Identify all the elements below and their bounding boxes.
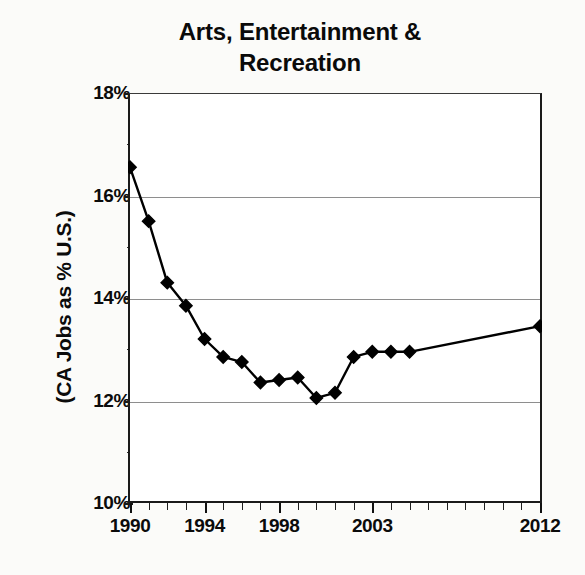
- x-tick-2007: [447, 503, 448, 510]
- chart-title-line-1: Arts, Entertainment &: [90, 16, 510, 47]
- x-tick-1996: [242, 503, 243, 510]
- x-axis: 19901994199820032012: [128, 503, 542, 563]
- data-point-marker: [385, 346, 397, 358]
- data-point-marker: [366, 346, 378, 358]
- x-tick-2010: [503, 503, 504, 510]
- data-point-marker: [142, 215, 154, 227]
- x-tick-1992: [167, 503, 168, 510]
- data-point-marker: [128, 161, 136, 173]
- x-tick-1994: [205, 503, 207, 513]
- data-point-marker: [534, 320, 542, 332]
- x-tick-1998: [279, 503, 281, 513]
- x-tick-label-2012: 2012: [495, 515, 585, 537]
- data-point-marker: [403, 346, 415, 358]
- series-line: [130, 167, 540, 398]
- x-tick-2002: [354, 503, 355, 510]
- x-tick-label-1998: 1998: [234, 515, 324, 537]
- data-point-marker: [347, 351, 359, 363]
- data-point-marker: [329, 387, 341, 399]
- x-tick-2008: [465, 503, 466, 510]
- chart-page: Arts, Entertainment & Recreation (CA Job…: [0, 0, 585, 575]
- y-axis: 18%16%14%12%10%: [38, 93, 130, 503]
- chart-title: Arts, Entertainment & Recreation: [90, 16, 510, 78]
- data-series-layer: [128, 93, 542, 503]
- x-tick-2006: [428, 503, 429, 510]
- data-point-marker: [273, 374, 285, 386]
- y-tick-label-16: 16%: [60, 185, 130, 207]
- x-tick-1991: [149, 503, 150, 510]
- x-tick-2003: [372, 503, 374, 513]
- x-tick-1990: [130, 503, 132, 513]
- x-tick-2001: [335, 503, 336, 510]
- x-tick-2005: [410, 503, 411, 510]
- x-tick-1999: [298, 503, 299, 510]
- x-tick-2011: [521, 503, 522, 510]
- y-tick-label-18: 18%: [60, 82, 130, 104]
- y-tick-label-12: 12%: [60, 390, 130, 412]
- x-tick-2000: [316, 503, 317, 510]
- x-tick-1995: [223, 503, 224, 510]
- x-tick-2004: [391, 503, 392, 510]
- x-tick-2009: [484, 503, 485, 510]
- x-tick-1997: [260, 503, 261, 510]
- y-tick-label-14: 14%: [60, 287, 130, 309]
- chart-title-line-2: Recreation: [90, 47, 510, 78]
- x-tick-1993: [186, 503, 187, 510]
- x-tick-label-2003: 2003: [327, 515, 417, 537]
- x-tick-2012: [540, 503, 542, 513]
- y-tick-label-10: 10%: [60, 492, 130, 514]
